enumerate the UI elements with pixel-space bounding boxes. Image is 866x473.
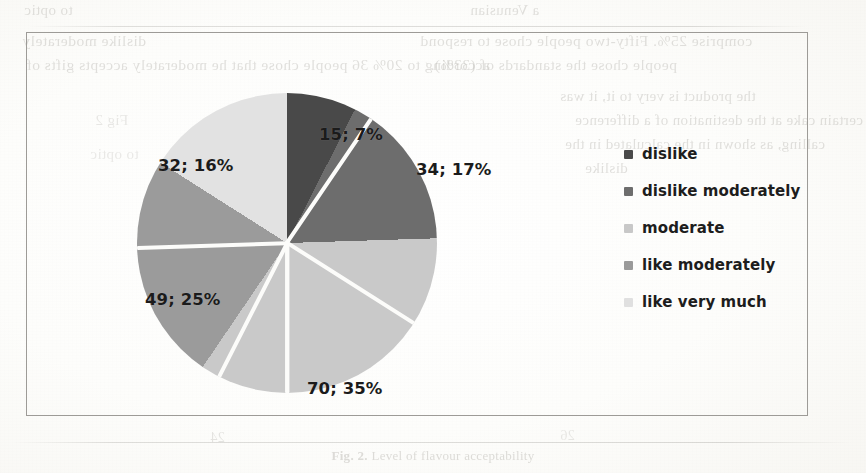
legend-item-label: like very much: [642, 293, 767, 311]
square-swatch-icon: [624, 298, 633, 307]
pie-data-label-dislike: 15; 7%: [319, 125, 383, 144]
legend-item-label: dislike: [642, 145, 698, 163]
pie-data-label-like-very-much: 32; 16%: [158, 156, 234, 175]
square-swatch-icon: [624, 187, 633, 196]
legend-item-moderate[interactable]: moderate: [624, 219, 801, 237]
legend-item-label: dislike moderately: [642, 182, 801, 200]
legend-item-dislike-moderately[interactable]: dislike moderately: [624, 182, 801, 200]
pie-data-label-moderate: 70; 35%: [307, 379, 383, 398]
pie-data-label-like-moderately: 49; 25%: [145, 290, 221, 309]
chart-legend: dislike dislike moderately moderate like…: [624, 145, 801, 311]
legend-item-label: moderate: [642, 219, 725, 237]
pie-slice-divider: [285, 243, 289, 393]
legend-item-dislike[interactable]: dislike: [624, 145, 801, 163]
chart-frame: 15; 7% 34; 17% 70; 35% 49; 25% 32; 16% d…: [26, 32, 808, 416]
square-swatch-icon: [624, 224, 633, 233]
pie-chart[interactable]: [137, 93, 437, 393]
legend-item-like-very-much[interactable]: like very much: [624, 293, 801, 311]
square-swatch-icon: [624, 261, 633, 270]
legend-item-like-moderately[interactable]: like moderately: [624, 256, 801, 274]
square-swatch-icon: [624, 150, 633, 159]
legend-item-label: like moderately: [642, 256, 775, 274]
pie-data-label-dislike-moderately: 34; 17%: [416, 160, 492, 179]
